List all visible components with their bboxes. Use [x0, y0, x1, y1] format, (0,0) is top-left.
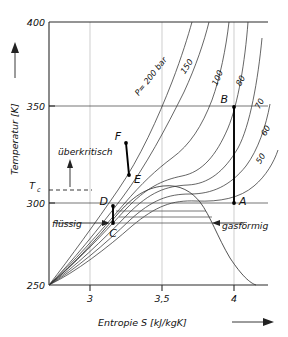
region-label-liquid: flüssig: [52, 218, 82, 229]
isobar-label-70: 70: [252, 97, 266, 111]
x-tick-label-3.5: 3,5: [154, 293, 169, 304]
saturation-dome: [49, 186, 256, 285]
tc-sublabel: c: [37, 186, 41, 194]
x-axis-tick-labels: 3 3,5 4: [87, 293, 237, 304]
y-tick-label-400: 400: [27, 17, 45, 28]
y-axis-arrow-head-icon: [11, 42, 19, 53]
x-axis-title-group: Entropie S [kJ/kgK]: [98, 317, 274, 328]
region-label-supercritical: überkritisch: [58, 146, 113, 157]
point-label-c: C: [109, 227, 117, 240]
supercritical-arrow-head-icon: [67, 159, 73, 168]
point-marker-a: [232, 201, 236, 205]
isobar-label-50: 50: [253, 151, 267, 165]
isobar-label-200bar: P= 200 bar: [132, 54, 169, 97]
point-label-f: F: [115, 130, 122, 143]
x-tick-label-3: 3: [87, 293, 93, 304]
point-marker-f: [124, 141, 128, 145]
saturation-dome-curve: [49, 186, 256, 285]
process-segment-e-f: [126, 143, 129, 175]
y-axis-title-group: Temperatur [K]: [9, 42, 20, 175]
x-axis-arrow-head-icon: [263, 318, 274, 326]
y-tick-label-350: 350: [27, 101, 45, 112]
point-label-b: B: [220, 93, 228, 106]
isobar-label-80: 80: [233, 74, 247, 88]
y-tick-label-250: 250: [27, 280, 45, 291]
point-label-e: E: [134, 173, 141, 186]
point-marker-b: [232, 105, 236, 109]
isobar-label-100: 100: [210, 69, 225, 87]
point-marker-c: [111, 221, 115, 225]
y-tick-label-300: 300: [27, 198, 45, 209]
point-marker-d: [111, 204, 115, 208]
process-paths: [111, 105, 236, 225]
isobar-50bar: [49, 150, 278, 285]
x-tick-label-4: 4: [231, 293, 237, 304]
point-marker-e: [127, 173, 131, 177]
ts-diagram-canvas: 400 350 300 250 T c Temperatur [K] 3 3,5…: [0, 0, 288, 337]
point-label-a: A: [238, 195, 247, 208]
critical-temperature-marker: [49, 159, 92, 190]
region-label-gas: gasförmig: [222, 220, 268, 231]
isobar-60bar: [49, 104, 270, 285]
point-label-d: D: [100, 195, 108, 208]
y-axis-tick-labels: 400 350 300 250 T c: [27, 17, 45, 291]
ts-diagram-figure: 400 350 300 250 T c Temperatur [K] 3 3,5…: [0, 0, 288, 337]
isobar-label-60: 60: [258, 123, 272, 137]
x-axis-title: Entropie S [kJ/kgK]: [98, 317, 187, 328]
tc-label: T: [29, 180, 36, 191]
region-labels: überkritisch flüssig gasförmig: [52, 146, 268, 231]
y-axis-title: Temperatur [K]: [9, 103, 20, 175]
